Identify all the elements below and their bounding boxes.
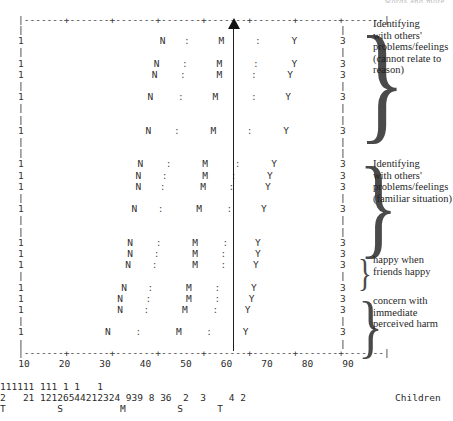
x-tick-60: 60	[216, 358, 238, 369]
marker-sep-upper: :	[223, 237, 229, 248]
marker-sep-lower: :	[146, 293, 152, 304]
annotation-text-3: happy when friends happy	[373, 254, 453, 277]
marker-y: Y	[283, 125, 289, 136]
row-left-bound: 1	[18, 248, 24, 259]
marker-m: M	[192, 259, 198, 270]
marker-sep-lower: :	[152, 259, 158, 270]
row-left-bound: 1	[18, 203, 24, 214]
marker-y: Y	[291, 58, 297, 69]
marker-y: Y	[253, 259, 259, 270]
annotation-text-4: concern with immediate perceived harm	[373, 295, 453, 330]
top-caption-fragment: words and more	[385, 0, 445, 3]
row-right-bound: 3	[340, 326, 346, 337]
marker-y: Y	[267, 170, 273, 181]
marker-sep-lower: :	[144, 304, 150, 315]
marker-y: Y	[245, 304, 251, 315]
marker-y: Y	[287, 69, 293, 80]
row-left-bound: |	[18, 102, 24, 113]
marker-sep-lower: :	[184, 35, 190, 46]
marker-sep-upper: :	[247, 125, 253, 136]
marker-sep-lower: :	[166, 158, 172, 169]
marker-sep-upper: :	[214, 293, 220, 304]
marker-sep-lower: :	[174, 125, 180, 136]
row-left-bound: 1	[18, 58, 24, 69]
row-left-bound: 1	[18, 293, 24, 304]
row-right-bound: 3	[340, 91, 346, 102]
row-right-bound: 3	[340, 158, 346, 169]
row-left-bound: 1	[18, 125, 24, 136]
row-right-bound: 3	[340, 259, 346, 270]
marker-y: Y	[255, 248, 261, 259]
annotation-text-2: Identifying with others' problems/feelin…	[373, 158, 453, 204]
marker-y: Y	[261, 203, 267, 214]
marker-sep-lower: :	[178, 91, 184, 102]
marker-m: M	[216, 58, 222, 69]
x-tick-40: 40	[135, 358, 157, 369]
marker-sep-upper: :	[251, 91, 257, 102]
row-right-bound: 3	[340, 293, 346, 304]
count-row-letters: T S M S T	[0, 403, 223, 414]
row-left-bound: 1	[18, 259, 24, 270]
row-left-bound: |	[18, 114, 24, 125]
marker-sep-upper: :	[214, 282, 220, 293]
marker-m: M	[186, 282, 192, 293]
row-left-bound: 1	[18, 91, 24, 102]
row-left-bound: 1	[18, 170, 24, 181]
marker-y: Y	[251, 282, 257, 293]
row-left-bound: |	[18, 226, 24, 237]
row-right-bound: |	[340, 192, 346, 203]
marker-n: N	[135, 181, 141, 192]
marker-m: M	[176, 326, 182, 337]
x-tick-50: 50	[175, 358, 197, 369]
marker-n: N	[154, 58, 160, 69]
row-right-bound: |	[340, 147, 346, 158]
marker-sep-lower: :	[160, 181, 166, 192]
marker-m: M	[200, 181, 206, 192]
row-right-bound: 3	[340, 58, 346, 69]
median-arrow-head	[228, 18, 240, 29]
axis-rule-bottom: |-------+-------+-------+-------+-------…	[18, 347, 390, 358]
row-right-bound: 3	[340, 181, 346, 192]
marker-n: N	[131, 203, 137, 214]
row-right-bound: |	[340, 214, 346, 225]
marker-sep-lower: :	[156, 237, 162, 248]
marker-n: N	[117, 304, 123, 315]
children-axis-label: Children	[395, 392, 441, 403]
marker-y: Y	[255, 237, 261, 248]
x-tick-30: 30	[94, 358, 116, 369]
x-tick-70: 70	[256, 358, 278, 369]
marker-m: M	[202, 158, 208, 169]
marker-sep-lower: :	[162, 170, 168, 181]
row-right-bound: |	[340, 102, 346, 113]
row-right-bound: |	[340, 315, 346, 326]
marker-n: N	[127, 237, 133, 248]
marker-sep-upper: :	[206, 326, 212, 337]
row-right-bound: 3	[340, 125, 346, 136]
marker-n: N	[105, 326, 111, 337]
marker-sep-lower: :	[158, 203, 164, 214]
marker-n: N	[121, 282, 127, 293]
marker-sep-upper: :	[251, 69, 257, 80]
row-right-bound: 3	[340, 304, 346, 315]
marker-m: M	[192, 237, 198, 248]
marker-y: Y	[291, 35, 297, 46]
marker-n: N	[135, 170, 141, 181]
row-left-bound: 1	[18, 69, 24, 80]
marker-m: M	[182, 304, 188, 315]
marker-n: N	[137, 158, 143, 169]
marker-y: Y	[271, 158, 277, 169]
row-right-bound: 3	[340, 35, 346, 46]
marker-sep-upper: :	[212, 304, 218, 315]
row-right-bound: 3	[340, 282, 346, 293]
marker-n: N	[152, 69, 158, 80]
marker-sep-upper: :	[235, 158, 241, 169]
row-right-bound: |	[340, 24, 346, 35]
marker-n: N	[117, 293, 123, 304]
marker-n: N	[125, 259, 131, 270]
row-right-bound: |	[340, 270, 346, 281]
brace-3: }	[358, 254, 372, 292]
median-arrow-shaft	[233, 26, 234, 351]
row-left-bound: |	[18, 46, 24, 57]
row-right-bound: 3	[340, 237, 346, 248]
marker-sep-upper: :	[253, 58, 259, 69]
